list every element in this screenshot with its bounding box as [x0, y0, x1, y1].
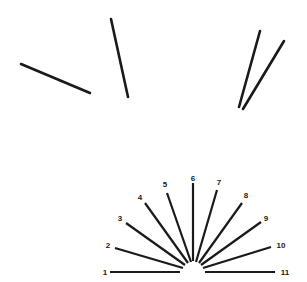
test-line-a: [21, 64, 90, 93]
response-fan: 1234567891011: [103, 174, 290, 277]
fan-label-8: 8: [244, 191, 249, 200]
fan-label-11: 11: [281, 268, 290, 277]
test-line-pairs: [21, 19, 284, 109]
fan-label-4: 4: [138, 193, 143, 202]
fan-label-6: 6: [191, 174, 196, 183]
test-line-b: [111, 19, 128, 97]
fan-label-3: 3: [118, 214, 123, 223]
fan-label-9: 9: [264, 214, 269, 223]
test-line-c: [239, 31, 260, 107]
fan-label-5: 5: [163, 180, 168, 189]
line-orientation-figure: 1234567891011: [0, 0, 307, 282]
fan-line-3: [126, 223, 185, 265]
fan-label-1: 1: [103, 268, 108, 277]
fan-label-10: 10: [277, 241, 286, 250]
fan-line-2: [115, 248, 183, 268]
fan-label-7: 7: [217, 178, 222, 187]
fan-label-2: 2: [106, 241, 111, 250]
